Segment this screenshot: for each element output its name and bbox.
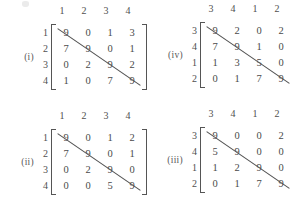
matrix-row: 9 2 0 2 <box>204 23 291 39</box>
matrix-block-iv: (iv) 3 4 1 2 3 4 1 2 9 2 0 <box>151 2 291 88</box>
row-header: 3 <box>187 128 197 144</box>
row-header: 1 <box>38 25 48 41</box>
matrix-cell: 9 <box>121 73 143 89</box>
matrix-cell: 1 <box>55 73 77 89</box>
matrix-cell: 0 <box>248 144 270 160</box>
matrix-cell: 9 <box>55 25 77 41</box>
matrix-cell: 2 <box>270 23 291 39</box>
row-header: 2 <box>38 146 48 162</box>
matrix-cell: 1 <box>226 176 248 192</box>
column-header: 4 <box>222 107 244 127</box>
matrix-cell: 7 <box>99 73 121 89</box>
matrix-cell: 7 <box>248 176 270 192</box>
matrix-cell: 7 <box>55 41 77 57</box>
matrix-body-ii: 1 2 3 4 9 0 1 2 7 9 0 1 <box>51 109 147 195</box>
matrix-row: 0 1 7 9 <box>204 176 291 192</box>
column-header: 3 <box>95 109 117 129</box>
matrix-figure-grid: (i) 1 2 3 4 1 2 3 4 9 0 1 <box>0 0 291 210</box>
row-headers-i: 1 2 3 4 <box>38 5 51 89</box>
matrix-cell: 9 <box>270 176 291 192</box>
matrix-bracket-iv: 9 2 0 2 7 9 1 0 1 3 5 0 <box>200 22 291 88</box>
matrix-label-i: (i) <box>6 32 38 62</box>
matrix-cell: 9 <box>55 130 77 146</box>
matrix-cell: 1 <box>99 130 121 146</box>
matrix-row: 7 9 0 1 <box>55 41 143 57</box>
matrix-cell: 9 <box>270 71 291 87</box>
matrix-cell: 5 <box>204 144 226 160</box>
matrix-row: 0 1 7 9 <box>204 71 291 87</box>
matrix-row: 7 9 1 0 <box>204 39 291 55</box>
matrix-cell: 0 <box>248 128 270 144</box>
column-header: 4 <box>117 4 139 24</box>
matrix-cell: 0 <box>77 25 99 41</box>
row-header: 4 <box>38 178 48 194</box>
matrix-cell: 2 <box>77 162 99 178</box>
matrix-label-iv: (iv) <box>151 30 187 60</box>
matrix-cell: 0 <box>270 160 291 176</box>
matrix-row: 7 9 0 1 <box>55 146 143 162</box>
matrix-cell: 9 <box>204 128 226 144</box>
matrix-block-iii: (iii) 3 4 1 2 3 4 1 2 9 0 0 <box>151 107 291 193</box>
column-header: 4 <box>222 2 244 22</box>
matrix-row: 1 0 7 9 <box>55 73 143 89</box>
row-header: 4 <box>38 73 48 89</box>
matrix-row: 9 0 0 2 <box>204 128 291 144</box>
column-header: 2 <box>73 109 95 129</box>
column-header: 1 <box>244 2 266 22</box>
matrix-cell: 7 <box>248 71 270 87</box>
matrix-row: 1 3 5 0 <box>204 55 291 71</box>
matrix-block-ii: (ii) 1 2 3 4 1 2 3 4 9 0 1 <box>6 109 147 195</box>
matrix-cell: 2 <box>270 128 291 144</box>
row-header: 2 <box>187 71 197 87</box>
matrix-cell: 1 <box>248 39 270 55</box>
matrix-cell: 0 <box>270 55 291 71</box>
matrix-iv: (iv) 3 4 1 2 3 4 1 2 9 2 0 <box>151 2 291 88</box>
matrix-cell: 1 <box>204 55 226 71</box>
row-header: 1 <box>187 55 197 71</box>
row-header: 2 <box>187 176 197 192</box>
row-header: 2 <box>38 41 48 57</box>
matrix-row: 0 2 9 2 <box>55 57 143 73</box>
matrix-i: (i) 1 2 3 4 1 2 3 4 9 0 1 <box>6 4 147 90</box>
matrix-cell: 9 <box>204 23 226 39</box>
matrix-cell: 2 <box>121 57 143 73</box>
row-header: 4 <box>187 39 197 55</box>
matrix-cell: 0 <box>99 41 121 57</box>
matrix-cell: 0 <box>270 144 291 160</box>
matrix-cell: 2 <box>121 130 143 146</box>
row-headers-iii: 3 4 1 2 <box>187 108 200 192</box>
matrix-cell: 9 <box>248 160 270 176</box>
matrix-cell: 0 <box>77 130 99 146</box>
column-headers-iv: 3 4 1 2 <box>200 2 291 22</box>
matrix-cell: 0 <box>55 162 77 178</box>
matrix-cell: 9 <box>77 41 99 57</box>
matrix-cell: 1 <box>99 25 121 41</box>
matrix-cell: 0 <box>77 178 99 194</box>
column-header: 3 <box>200 2 222 22</box>
column-headers-ii: 1 2 3 4 <box>51 109 147 129</box>
column-header: 1 <box>244 107 266 127</box>
matrix-cell: 7 <box>204 39 226 55</box>
matrix-cell: 9 <box>226 39 248 55</box>
matrix-bracket-i: 9 0 1 3 7 9 0 1 0 2 9 2 <box>51 24 147 90</box>
matrix-cell: 9 <box>77 146 99 162</box>
matrix-bracket-ii: 9 0 1 2 7 9 0 1 0 2 9 0 <box>51 129 147 195</box>
matrix-cell: 0 <box>248 23 270 39</box>
matrix-row: 9 0 1 3 <box>55 25 143 41</box>
matrix-cell: 5 <box>99 178 121 194</box>
matrix-cell: 0 <box>270 39 291 55</box>
matrix-block-i: (i) 1 2 3 4 1 2 3 4 9 0 1 <box>6 4 147 90</box>
matrix-cell: 5 <box>248 55 270 71</box>
matrix-row: 0 2 9 0 <box>55 162 143 178</box>
column-header: 2 <box>266 107 288 127</box>
matrix-label-iii: (iii) <box>151 135 187 165</box>
matrix-cell: 2 <box>226 23 248 39</box>
column-header: 3 <box>200 107 222 127</box>
column-headers-iii: 3 4 1 2 <box>200 107 291 127</box>
matrix-bracket-iii: 9 0 0 2 5 9 0 0 1 2 9 0 <box>200 127 291 193</box>
matrix-cell: 9 <box>121 178 143 194</box>
matrix-label-ii: (ii) <box>6 137 38 167</box>
matrix-cell: 9 <box>99 57 121 73</box>
row-header: 3 <box>38 162 48 178</box>
matrix-cell: 9 <box>99 162 121 178</box>
